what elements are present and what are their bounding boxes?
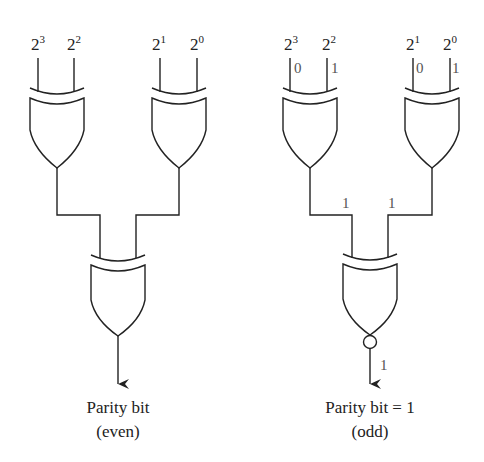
xor-gate-e xyxy=(405,88,459,168)
input-bit-value: 1 xyxy=(452,60,460,76)
xor-gate-d xyxy=(283,88,337,168)
output-type-label: (odd) xyxy=(352,422,389,441)
odd-parity-circuit: 23 22 21 20 0 1 0 1 1 1 xyxy=(283,33,460,441)
input-bit-value: 0 xyxy=(294,60,302,76)
input-label-2-3: 23 xyxy=(31,33,46,54)
input-label-2-2: 22 xyxy=(67,33,81,54)
input-label-2-3: 23 xyxy=(284,33,299,54)
xor-gate-c xyxy=(91,255,145,336)
inversion-bubble-icon xyxy=(364,336,377,349)
wire-b-to-c xyxy=(136,168,179,258)
output-bit-value: 1 xyxy=(380,357,388,373)
wire-a-to-c xyxy=(57,168,100,258)
output-label: Parity bit = 1 xyxy=(325,398,414,417)
input-label-2-0: 20 xyxy=(443,33,458,54)
input-bit-value: 0 xyxy=(416,60,424,76)
input-label-2-1: 21 xyxy=(406,33,420,54)
xnor-gate-f xyxy=(343,254,397,349)
input-label-2-1: 21 xyxy=(152,33,166,54)
input-bit-value: 1 xyxy=(331,60,339,76)
intermediate-bit-value: 1 xyxy=(342,195,350,211)
input-label-2-0: 20 xyxy=(190,33,205,54)
output-label: Parity bit xyxy=(87,398,150,417)
xor-gate-b xyxy=(152,88,206,168)
xor-gate-a xyxy=(30,88,84,168)
even-parity-circuit: 23 22 21 20 Parity bit (even) xyxy=(30,33,206,441)
input-label-2-2: 22 xyxy=(322,33,336,54)
intermediate-bit-value: 1 xyxy=(388,195,396,211)
wire-d-to-f xyxy=(310,168,352,258)
wire-e-to-f xyxy=(388,168,432,258)
output-type-label: (even) xyxy=(96,422,139,441)
